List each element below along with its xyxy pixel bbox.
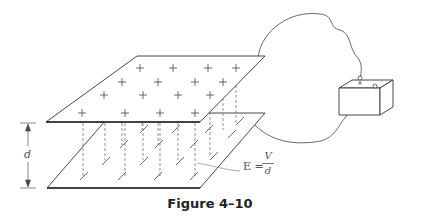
top-plate — [46, 56, 265, 122]
bottom-plate — [47, 113, 265, 188]
wire-top — [258, 13, 361, 80]
fraction-bar — [262, 163, 274, 164]
capacitor-diagram — [0, 0, 421, 221]
field-equation: E = — [243, 160, 264, 173]
battery-icon — [339, 76, 393, 115]
separation-label: d — [24, 148, 31, 161]
equation-denominator: d — [265, 165, 271, 176]
equation-numerator: V — [264, 150, 271, 161]
figure-caption: Figure 4–10 — [150, 196, 270, 211]
equation-fraction: V d — [262, 150, 274, 177]
equation-lhs: E — [243, 160, 251, 173]
